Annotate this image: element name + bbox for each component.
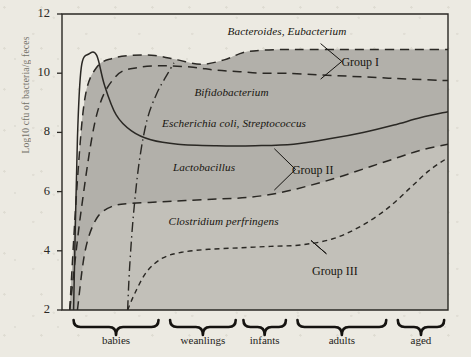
gut-flora-chart-figure: Log10 cfu of bacteria/g feces 24681012 b… <box>0 0 471 357</box>
y-axis-tick-8: 8 <box>28 124 50 139</box>
annotation-bacteroides-eubacterium: Bacteroides, Eubacterium <box>228 25 347 37</box>
chart-canvas <box>0 0 471 357</box>
y-axis-tick-2: 2 <box>28 302 50 317</box>
annotation-lactobacillus: Lactobacillus <box>173 161 235 173</box>
x-axis-category-adults: adults <box>297 334 387 346</box>
y-axis-tick-12: 12 <box>28 6 50 21</box>
category-braces <box>74 320 445 335</box>
x-axis-category-aged: aged <box>376 334 466 346</box>
x-axis-category-babies: babies <box>71 334 161 346</box>
y-axis-tick-6: 6 <box>28 184 50 199</box>
annotation-escherichia-coli-streptococcus: Escherichia coli, Streptococcus <box>162 117 306 129</box>
y-axis-tick-10: 10 <box>28 65 50 80</box>
y-axis-tick-4: 4 <box>28 243 50 258</box>
annotation-clostridium-perfringens: Clostridium perfringens <box>169 215 279 227</box>
annotation-group-i: Group I <box>341 55 379 70</box>
annotation-group-ii: Group II <box>292 163 334 178</box>
annotation-group-iii: Group III <box>312 264 358 279</box>
annotation-bifidobacterium: Bifidobacterium <box>194 86 268 98</box>
